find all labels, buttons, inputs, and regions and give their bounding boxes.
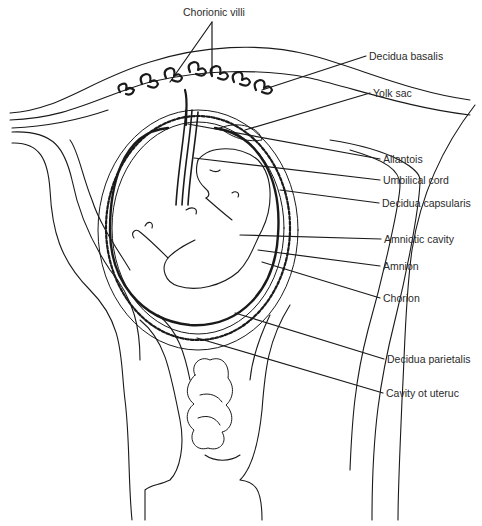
label-amniotic-cavity: Amniotic cavity xyxy=(384,233,454,245)
chorion-ring xyxy=(98,110,298,350)
uterine-wall xyxy=(10,47,475,520)
label-yolk-sac: Yolk sac xyxy=(373,87,412,99)
label-chorion: Chorion xyxy=(383,292,420,304)
fetus xyxy=(133,149,270,289)
label-decidua-basalis: Decidua basalis xyxy=(369,50,443,62)
mucus-plug xyxy=(187,359,232,449)
label-amnion: Amnion xyxy=(383,260,419,272)
label-decidua-parietalis: Decidua parietalis xyxy=(387,353,470,365)
label-umbilical-cord: Umbilical cord xyxy=(383,174,449,186)
label-decidua-capsularis: Decidua capsularis xyxy=(382,197,471,209)
label-cavity-of-uterus: Cavity ot uteruc xyxy=(386,387,459,399)
label-allantois: Allantois xyxy=(383,153,423,165)
diagram-canvas: Chorionic villi Decidua basalis Yolk sac… xyxy=(0,0,482,526)
label-chorionic-villi: Chorionic villi xyxy=(183,6,245,18)
